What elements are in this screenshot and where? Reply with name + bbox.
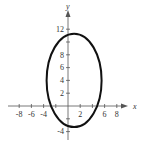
x-axis-arrow-icon bbox=[121, 104, 128, 109]
y-axis-label: y bbox=[65, 2, 70, 11]
y-tick-label: 12 bbox=[56, 25, 64, 34]
y-tick-label: 8 bbox=[60, 51, 64, 60]
y-tick-label: -4 bbox=[57, 127, 64, 136]
x-tick-label: -6 bbox=[28, 110, 35, 119]
x-tick-label: 6 bbox=[103, 110, 107, 119]
x-axis-label: x bbox=[132, 102, 137, 111]
y-tick-label: 4 bbox=[60, 76, 64, 85]
x-tick-label: 2 bbox=[78, 110, 82, 119]
y-tick-label: 2 bbox=[60, 89, 64, 98]
x-tick-label: -4 bbox=[40, 110, 47, 119]
y-tick-label: 6 bbox=[60, 63, 64, 72]
ellipse-chart: -8 -6 -4 2 6 8 12 8 6 4 2 -4 x y bbox=[0, 0, 145, 149]
ellipse-curve bbox=[47, 34, 102, 127]
x-tick-label: 8 bbox=[115, 110, 119, 119]
x-tick-label: -8 bbox=[16, 110, 23, 119]
y-axis-arrow-icon bbox=[66, 10, 71, 17]
